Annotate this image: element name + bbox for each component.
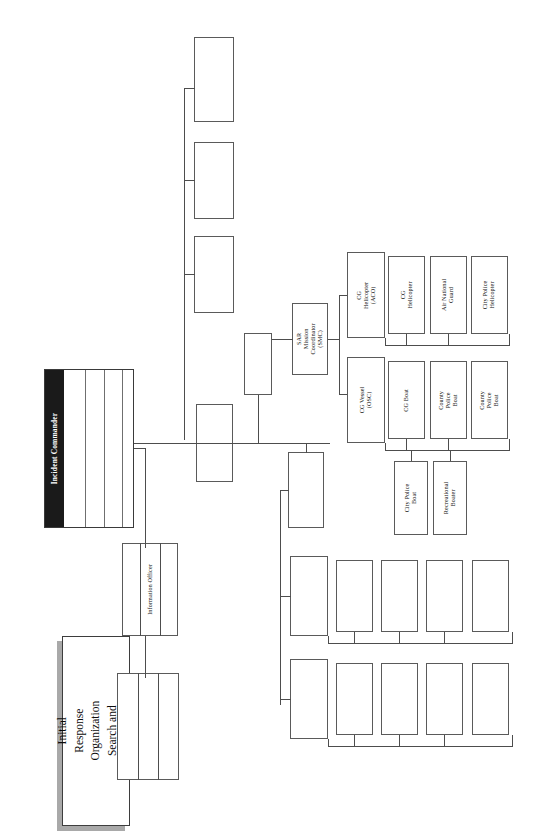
cg-boat-label: CG Boat: [403, 389, 410, 412]
connector: [406, 439, 407, 450]
cg-vessel-osc-label: CG Vessel (OSC): [359, 387, 373, 414]
resource-box[interactable]: [426, 663, 463, 735]
connector: [444, 632, 445, 643]
resource-box[interactable]: [290, 556, 328, 636]
connector: [411, 450, 412, 461]
connector: [339, 295, 347, 296]
connector-main-trunk: [134, 443, 330, 444]
connector-group-b-bus: [328, 746, 513, 747]
connector: [328, 636, 329, 643]
sar-mission-coordinator-label: SAR Mission Coordinator (SMC): [296, 322, 324, 356]
recreational-boater-label: Recreational Boater: [443, 482, 457, 514]
county-police-boat-label: County Police Boat: [479, 383, 500, 418]
connector: [509, 334, 510, 345]
connector: [306, 443, 307, 453]
connector: [258, 395, 259, 443]
county-police-boat-box[interactable]: County Police Boat: [471, 361, 508, 439]
connector: [184, 88, 195, 89]
connector: [512, 735, 513, 746]
connector-group-a-bus: [328, 643, 513, 644]
connector: [385, 338, 386, 345]
cg-helicopter-aco-box[interactable]: CG Helicopter (ACO): [347, 252, 385, 338]
sar-mission-coordinator-box[interactable]: SAR Mission Coordinator (SMC): [292, 303, 328, 375]
connector: [354, 632, 355, 643]
city-police-boat-label: City Police Boat: [404, 482, 418, 514]
resource-box[interactable]: [472, 663, 509, 735]
connector: [145, 448, 146, 548]
resource-box[interactable]: [381, 663, 418, 735]
connector: [450, 450, 451, 461]
connector: [339, 394, 347, 395]
cg-helicopter-box[interactable]: CG Helicopter: [388, 256, 425, 334]
resource-box[interactable]: [336, 560, 373, 632]
incident-commander-band: Incident Commander: [45, 370, 64, 527]
connector: [406, 334, 407, 345]
connector: [280, 490, 289, 491]
connector: [354, 735, 355, 746]
connector: [280, 596, 291, 597]
command-staff-box[interactable]: [117, 673, 179, 780]
resource-box[interactable]: [426, 560, 463, 632]
county-police-boat-box[interactable]: County Police Boat: [430, 361, 467, 439]
cg-helicopter-aco-label: CG Helicopter (ACO): [356, 277, 377, 313]
air-national-guard-label: Air National Guard: [442, 279, 456, 311]
city-police-boat-box[interactable]: City Police Boat: [394, 461, 428, 535]
connector: [184, 274, 195, 275]
connector: [385, 443, 386, 450]
connector: [339, 295, 340, 395]
incident-commander-label: Incident Commander: [50, 413, 59, 485]
section-box[interactable]: [194, 142, 234, 219]
connector: [509, 439, 510, 450]
cg-boat-box[interactable]: CG Boat: [388, 361, 425, 439]
connector-surface-bus: [385, 450, 510, 451]
connector: [399, 632, 400, 643]
branch-box[interactable]: [244, 333, 272, 395]
information-officer-label: Information Officer: [147, 564, 154, 615]
city-police-helicopter-label: City Police Helicopter: [483, 281, 497, 310]
information-officer-box[interactable]: Information Officer: [122, 543, 178, 636]
connector: [280, 699, 291, 700]
resource-box[interactable]: [472, 560, 509, 632]
connector-lower-spine: [280, 490, 281, 705]
connector: [184, 88, 185, 440]
city-police-helicopter-box[interactable]: City Police Helicopter: [471, 256, 508, 334]
incident-commander-box[interactable]: Incident Commander: [44, 369, 134, 528]
branch-box[interactable]: [288, 452, 324, 528]
connector: [448, 334, 449, 345]
connector: [444, 735, 445, 746]
cg-vessel-osc-box[interactable]: CG Vessel (OSC): [347, 357, 385, 443]
connector: [145, 636, 146, 678]
air-national-guard-box[interactable]: Air National Guard: [430, 256, 467, 334]
section-box[interactable]: [194, 236, 234, 313]
cg-helicopter-label: CG Helicopter: [400, 281, 414, 308]
connector: [328, 739, 329, 746]
connector-air-bus: [385, 345, 510, 346]
resource-box[interactable]: [381, 560, 418, 632]
section-box[interactable]: [194, 37, 234, 122]
org-chart-canvas: Initial Response Organization Search and…: [0, 0, 551, 839]
connector: [448, 439, 449, 450]
county-police-boat-label: County Police Boat: [438, 383, 459, 418]
connector: [272, 339, 293, 340]
connector: [399, 735, 400, 746]
resource-box[interactable]: [336, 663, 373, 735]
recreational-boater-box[interactable]: Recreational Boater: [433, 461, 467, 535]
connector: [512, 632, 513, 643]
resource-box[interactable]: [290, 659, 328, 739]
connector: [184, 180, 195, 181]
